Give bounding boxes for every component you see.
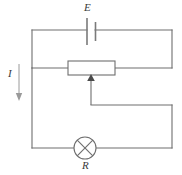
circuit-diagram: E R I <box>0 0 182 175</box>
current-direction-arrow-icon <box>16 64 22 101</box>
battery-label: E <box>84 2 91 13</box>
lamp-label: R <box>82 160 89 171</box>
current-arrow-head <box>16 93 22 101</box>
rheostat-wiper <box>87 74 95 105</box>
circuit-schematic-canvas <box>0 0 182 175</box>
battery-symbol <box>87 18 96 45</box>
current-label: I <box>8 68 12 79</box>
lamp-symbol <box>74 137 96 159</box>
rheostat-body <box>68 61 115 75</box>
